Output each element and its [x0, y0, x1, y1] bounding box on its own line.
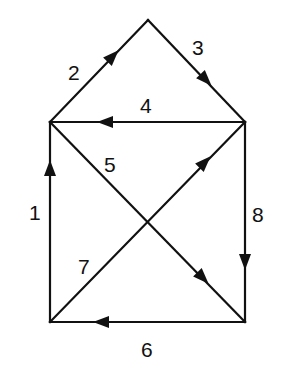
- edge-label-1: 1: [29, 201, 41, 224]
- edge-label-4: 4: [140, 94, 152, 117]
- arrow-left-icon: [97, 116, 113, 128]
- arrow-up-icon: [44, 160, 56, 176]
- edge-label-7: 7: [78, 255, 90, 278]
- edge-label-3: 3: [192, 36, 204, 59]
- edge-label-5: 5: [104, 153, 116, 176]
- arrow-left-icon: [93, 316, 109, 328]
- edge-2: [50, 20, 148, 122]
- arrow-down-icon: [239, 254, 251, 270]
- edge-label-6: 6: [141, 338, 153, 361]
- edge-label-2: 2: [68, 61, 80, 84]
- directed-graph-diagram: 1 2 3 4 5 6 7 8: [0, 0, 288, 373]
- edge-label-8: 8: [252, 203, 264, 226]
